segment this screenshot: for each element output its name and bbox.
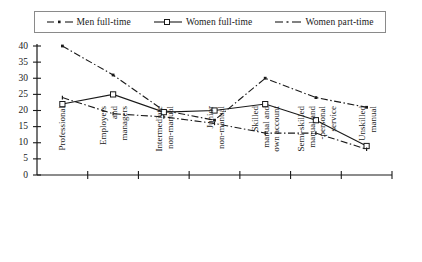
x-axis-label: Unskilled manual bbox=[357, 106, 378, 182]
data-point-marker bbox=[61, 45, 64, 48]
y-tick-label: 15 bbox=[6, 121, 28, 131]
y-tick-label: 10 bbox=[6, 137, 28, 147]
y-tick-label: 35 bbox=[6, 57, 28, 67]
x-axis-label: Junior non-manual bbox=[205, 106, 226, 182]
x-axis-label: Intermediate non-manual bbox=[154, 106, 175, 182]
data-point-marker bbox=[315, 96, 318, 99]
y-tick-label: 0 bbox=[6, 170, 28, 180]
y-tick-label: 25 bbox=[6, 89, 28, 99]
x-axis-label: Employers and managers bbox=[98, 106, 130, 182]
y-tick-label: 40 bbox=[6, 41, 28, 51]
data-point-marker bbox=[112, 74, 115, 77]
y-tick-label: 5 bbox=[6, 153, 28, 163]
data-point-marker bbox=[264, 77, 267, 80]
data-point-marker bbox=[111, 92, 116, 97]
y-tick-label: 20 bbox=[6, 105, 28, 115]
x-axis-label: Semi-skilled manual and -personal servic… bbox=[296, 106, 338, 182]
x-axis-label: Skilled manual and own account bbox=[250, 106, 282, 182]
line-chart: Men full-time Women full-time Women part… bbox=[0, 0, 422, 262]
y-tick-label: 30 bbox=[6, 73, 28, 83]
x-axis-label: Professional bbox=[57, 106, 68, 182]
